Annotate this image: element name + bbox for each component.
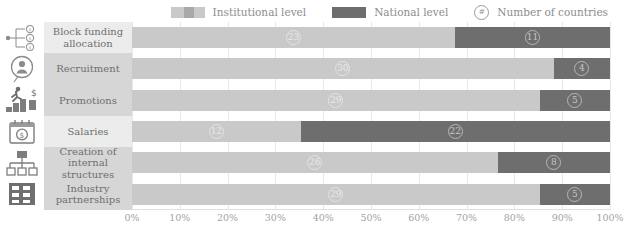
bar-segment-institutional: 26: [132, 152, 498, 173]
bar-row-creation-of-internal-structures: 26 8: [132, 147, 610, 178]
plot-area: 23 11 30 4: [132, 22, 610, 210]
legend-item-institutional: Institutional level: [171, 6, 307, 18]
bar-segment-national: 4: [554, 58, 610, 79]
value-label-institutional: 29: [328, 93, 343, 108]
category-label-industry-partnerships: Industry partnerships: [44, 179, 132, 210]
value-label-national: 11: [525, 30, 540, 45]
category-icon-column: $$$: [0, 22, 44, 210]
category-label-salaries: Salaries: [44, 116, 132, 147]
bar-row-recruitment: 30 4: [132, 53, 610, 84]
value-label-national: 5: [567, 93, 582, 108]
x-tick-30: 30%: [265, 212, 286, 223]
value-label-institutional: 26: [307, 155, 322, 170]
bar-segment-institutional: 23: [132, 27, 455, 48]
value-label-institutional: 23: [286, 30, 301, 45]
bar-row-promotions: 29 5: [132, 85, 610, 116]
bar-row-salaries: 12 22: [132, 116, 610, 147]
legend-item-national: National level: [332, 6, 448, 18]
industry-building-icon: [0, 179, 44, 210]
svg-text:$: $: [29, 35, 32, 40]
category-label-promotions: Promotions: [44, 85, 132, 116]
salary-calendar-dollar-icon: $: [0, 116, 44, 147]
category-label-creation-of-internal-structures: Creation of internal structures: [44, 147, 132, 178]
value-label-institutional: 29: [328, 187, 343, 202]
x-tick-90: 90%: [552, 212, 573, 223]
svg-text:$: $: [29, 26, 32, 31]
legend-swatch-institutional-icon: [171, 7, 205, 18]
svg-text:$: $: [29, 44, 32, 49]
x-tick-70: 70%: [456, 212, 477, 223]
bar-segment-national: 8: [498, 152, 610, 173]
svg-text:$: $: [20, 130, 25, 139]
bar-segment-national: 5: [540, 90, 610, 111]
value-label-national: 22: [448, 124, 463, 139]
x-tick-0: 0%: [124, 212, 139, 223]
bar-segment-institutional: 12: [132, 121, 301, 142]
x-tick-50: 50%: [360, 212, 381, 223]
value-label-institutional: 12: [209, 124, 224, 139]
category-label-column: Block funding allocation Recruitment Pro…: [44, 22, 132, 210]
x-tick-40: 40%: [313, 212, 334, 223]
x-tick-100: 100%: [596, 212, 623, 223]
person-in-circle-icon: [0, 53, 44, 84]
bar-segment-national: 11: [455, 27, 610, 48]
bar-row-block-funding-allocation: 23 11: [132, 22, 610, 53]
legend-item-number-of-countries: # Number of countries: [474, 5, 608, 20]
x-tick-60: 60%: [408, 212, 429, 223]
funding-allocation-tree-icon: $$$: [0, 22, 44, 53]
category-label-block-funding-allocation: Block funding allocation: [44, 22, 132, 53]
bar-segment-institutional: 29: [132, 184, 540, 205]
value-label-national: 8: [546, 155, 561, 170]
legend-label-national: National level: [374, 6, 448, 18]
bar-segment-national: 5: [540, 184, 610, 205]
svg-text:$: $: [31, 88, 37, 98]
bar-rows: 23 11 30 4: [132, 22, 610, 210]
legend-label-number-of-countries: Number of countries: [497, 6, 608, 18]
x-tick-20: 20%: [217, 212, 238, 223]
value-label-institutional: 30: [335, 61, 350, 76]
career-ladder-dollar-icon: $: [0, 85, 44, 116]
bar-segment-institutional: 29: [132, 90, 540, 111]
chart-legend: Institutional level National level # Num…: [0, 2, 616, 22]
bar-segment-institutional: 30: [132, 58, 554, 79]
value-label-national: 4: [574, 61, 589, 76]
legend-swatch-national-icon: [332, 7, 366, 18]
x-tick-10: 10%: [169, 212, 190, 223]
value-label-national: 5: [567, 187, 582, 202]
legend-label-institutional: Institutional level: [213, 6, 307, 18]
category-label-recruitment: Recruitment: [44, 53, 132, 84]
hash-circle-icon: #: [474, 5, 489, 20]
x-tick-80: 80%: [504, 212, 525, 223]
x-axis: 0% 10% 20% 30% 40% 50% 60% 70% 80% 90% 1…: [132, 210, 610, 228]
bar-row-industry-partnerships: 29 5: [132, 179, 610, 210]
bar-segment-national: 22: [301, 121, 610, 142]
org-chart-icon: [0, 147, 44, 178]
